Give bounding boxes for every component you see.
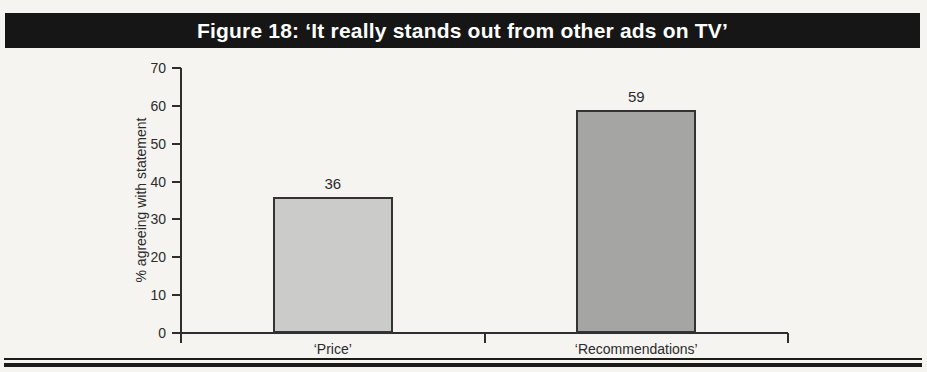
- y-tick: [172, 105, 181, 107]
- x-tick: [484, 333, 486, 343]
- y-tick: [172, 256, 181, 258]
- x-tick: [787, 333, 789, 343]
- y-tick: [172, 332, 181, 334]
- y-tick-label: 10: [128, 287, 166, 303]
- y-tick: [172, 181, 181, 183]
- category-label: ‘Price’: [223, 341, 443, 357]
- bar-chart: % agreeing with statement 01020304050607…: [0, 0, 927, 372]
- y-tick-label: 50: [128, 136, 166, 152]
- y-axis-line: [180, 68, 182, 343]
- figure-panel: Figure 18: ‘It really stands out from ot…: [0, 0, 927, 372]
- y-tick-label: 70: [128, 60, 166, 76]
- bottom-rule: [4, 358, 922, 367]
- y-tick-label: 0: [128, 325, 166, 341]
- bar: [273, 197, 393, 333]
- y-tick: [172, 67, 181, 69]
- y-tick: [172, 143, 181, 145]
- category-label: ‘Recommendations’: [526, 341, 746, 357]
- bar-value-label: 59: [576, 88, 696, 105]
- bar-value-label: 36: [273, 175, 393, 192]
- y-tick: [172, 294, 181, 296]
- y-tick-label: 30: [128, 211, 166, 227]
- bar: [576, 110, 696, 333]
- y-tick-label: 60: [128, 98, 166, 114]
- y-tick: [172, 218, 181, 220]
- y-tick-label: 40: [128, 174, 166, 190]
- y-tick-label: 20: [128, 249, 166, 265]
